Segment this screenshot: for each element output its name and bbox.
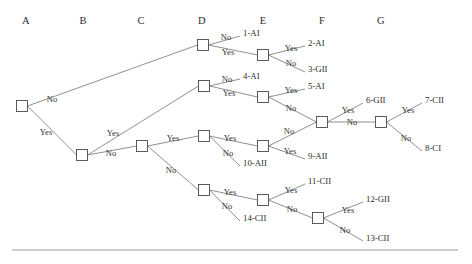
leaf-outcome-l5: 5-AI	[308, 81, 325, 91]
edge-label-a1-no: No	[47, 94, 58, 104]
decision-node-d1[interactable]	[198, 40, 209, 51]
leaf-outcome-l13: 13-CII	[366, 233, 389, 243]
edge-label-d1-no: No	[221, 32, 232, 42]
column-header-e: E	[260, 15, 267, 26]
leaf-outcome-l11: 11-CII	[308, 176, 331, 186]
decision-node-d2[interactable]	[199, 81, 210, 92]
column-header-b: B	[79, 15, 86, 26]
edge-label-d3-no: No	[223, 148, 234, 158]
edge-label-e4-yes: Yes	[285, 185, 298, 195]
decision-node-e1[interactable]	[258, 50, 269, 61]
edge-label-b1-yes: Yes	[107, 128, 120, 138]
edge-label-e1-no: No	[286, 58, 297, 68]
decision-node-a1[interactable]	[17, 101, 28, 112]
edge-label-d4-yes: Yes	[224, 187, 237, 197]
leaf-outcome-l10: 10-AII	[243, 158, 267, 168]
edge-label-f2-yes: Yes	[342, 205, 355, 215]
decision-node-c1[interactable]	[137, 141, 148, 152]
edge-label-e1-yes: Yes	[285, 43, 298, 53]
leaf-outcome-l6: 6-GII	[366, 95, 386, 105]
decision-tree-diagram: ABCDEFGNoYesYesNoYesNoNoYesYesNoNoYesYes…	[0, 0, 472, 264]
decision-node-f1[interactable]	[317, 117, 328, 128]
decision-node-e3[interactable]	[258, 141, 269, 152]
edge-label-d2-no: No	[222, 74, 233, 84]
column-header-g: G	[377, 15, 385, 26]
column-header-c: C	[137, 15, 144, 26]
edge-label-f1-no: No	[347, 117, 358, 127]
column-header-f: F	[319, 15, 325, 26]
leaf-outcome-l3: 3-GII	[308, 64, 328, 74]
decision-node-e2[interactable]	[258, 92, 269, 103]
edge-label-b1-no: No	[106, 148, 117, 158]
leaf-outcome-l9: 9-AII	[308, 151, 328, 161]
edge-label-e2-no: No	[286, 103, 297, 113]
leaf-outcome-l7: 7-CII	[425, 95, 444, 105]
decision-node-d4[interactable]	[199, 185, 210, 196]
leaf-outcome-l12: 12-GII	[366, 194, 390, 204]
column-header-d: D	[198, 15, 206, 26]
edge-label-e3-yes: Yes	[284, 146, 297, 156]
decision-node-b1[interactable]	[77, 150, 88, 161]
edge-label-f1-yes: Yes	[342, 105, 355, 115]
leaf-outcome-l2: 2-AI	[308, 38, 325, 48]
edge-label-d1-yes: Yes	[222, 47, 235, 57]
edge-label-g1-yes: Yes	[402, 105, 415, 115]
edge-label-e3-no: No	[284, 126, 295, 136]
column-header-a: A	[22, 15, 30, 26]
edge-label-c1-yes: Yes	[167, 133, 180, 143]
leaf-outcome-l4: 4-AI	[243, 71, 260, 81]
edge-label-f2-no: No	[340, 225, 351, 235]
edge-label-e2-yes: Yes	[285, 85, 298, 95]
leaf-outcome-l1: 1-AI	[243, 28, 260, 38]
decision-node-g1[interactable]	[376, 117, 387, 128]
tree-canvas	[0, 0, 472, 264]
decision-node-d3[interactable]	[199, 131, 210, 142]
edge-label-d2-yes: Yes	[223, 88, 236, 98]
leaf-outcome-l14: 14-CII	[243, 213, 266, 223]
decision-node-f2[interactable]	[313, 213, 324, 224]
edge-label-g1-no: No	[401, 133, 412, 143]
edge-label-d3-yes: Yes	[224, 133, 237, 143]
edge-label-c1-no: No	[166, 165, 177, 175]
edge-label-d4-no: No	[222, 201, 233, 211]
edge-label-a1-yes: Yes	[40, 127, 53, 137]
leaf-outcome-l8: 8-CI	[425, 143, 441, 153]
decision-node-e4[interactable]	[258, 195, 269, 206]
edge-label-e4-no: No	[287, 204, 298, 214]
